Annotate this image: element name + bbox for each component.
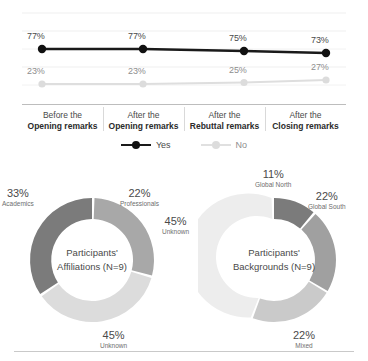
category-0-line2: Opening remarks [28, 121, 98, 131]
category-3-line2: Closing remarks [272, 121, 339, 131]
category-2-line1: After the [208, 110, 240, 120]
slice-mixed [253, 282, 327, 322]
legend-label-yes: Yes [156, 140, 171, 150]
yes-value-label-2: 75% [229, 33, 247, 43]
slice-unknown [42, 272, 152, 322]
legend-label-no: No [236, 140, 248, 150]
survey-results-figure: 77% 77% 75% 73% 23% 23% 25% 27% Before t… [0, 0, 368, 361]
category-1-line1: After the [127, 110, 159, 120]
affiliations-unknown-name: Unknown [100, 340, 127, 351]
global-north-name: Global North [255, 179, 292, 190]
category-0-line1: Before the [43, 110, 82, 120]
series-no [38, 76, 329, 87]
donut-affiliations-label-unknown: 45% Unknown [100, 330, 127, 351]
bottom-divider [14, 351, 354, 352]
category-cell-1: After the Opening remarks [103, 105, 184, 135]
no-value-label-0: 23% [27, 66, 45, 76]
academics-name: Academics [2, 198, 34, 209]
donut-chart-affiliations: Participants' Affiliations (N=9) 33% Aca… [16, 184, 168, 336]
line-chart-legend: Yes No [0, 137, 368, 153]
donut-affiliations-label-professionals: 22% Professionals [120, 188, 159, 209]
x-axis-category-strip: Before the Opening remarks After the Ope… [22, 104, 346, 135]
no-value-label-3: 27% [311, 62, 329, 72]
yes-value-label-0: 77% [27, 31, 45, 41]
slice-global-south [301, 214, 336, 291]
category-2-line2: Rebuttal remarks [190, 121, 259, 131]
no-value-label-1: 23% [128, 66, 146, 76]
professionals-name: Professionals [120, 198, 159, 209]
series-yes [38, 45, 330, 57]
slice-professionals [94, 198, 154, 276]
global-south-name: Global South [308, 201, 346, 212]
legend-item-no: No [201, 140, 248, 150]
yes-value-label-1: 77% [128, 31, 146, 41]
legend-marker-yes-icon [121, 140, 151, 150]
category-cell-2: After the Rebuttal remarks [184, 105, 265, 135]
donut-affiliations-label-academics: 33% Academics [2, 188, 34, 209]
donut-backgrounds-label-global-north: 11% Global North [255, 169, 292, 190]
line-chart-canvas [0, 0, 368, 100]
category-1-line2: Opening remarks [109, 121, 179, 131]
category-cell-0: Before the Opening remarks [22, 105, 103, 135]
donut-backgrounds-label-global-south: 22% Global South [308, 191, 346, 212]
mixed-name: Mixed [293, 340, 315, 351]
donut-backgrounds-label-unknown: 45% Unknown [162, 216, 189, 237]
backgrounds-unknown-name: Unknown [162, 226, 189, 237]
category-3-line1: After the [289, 110, 321, 120]
donut-chart-backgrounds: Participants' Backgrounds (N=9) 11% Glob… [198, 184, 350, 336]
legend-marker-no-icon [201, 140, 231, 150]
legend-item-yes: Yes [121, 140, 171, 150]
no-value-label-2: 25% [229, 65, 247, 75]
donut-charts-section: Participants' Affiliations (N=9) 33% Aca… [0, 168, 368, 353]
line-chart: 77% 77% 75% 73% 23% 23% 25% 27% [0, 0, 368, 100]
slice-academics [30, 198, 92, 294]
yes-value-label-3: 73% [311, 35, 329, 45]
category-cell-3: After the Closing remarks [265, 105, 346, 135]
donut-backgrounds-label-mixed: 22% Mixed [293, 330, 315, 351]
